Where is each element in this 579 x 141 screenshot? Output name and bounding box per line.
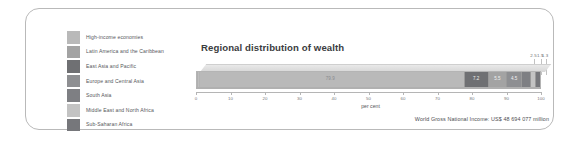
bar-front-face: 79.97.25.54.5 bbox=[196, 71, 541, 89]
bar-segment-label: 79.9 bbox=[326, 77, 335, 82]
bar-bottom-edge bbox=[196, 87, 541, 89]
legend-swatch bbox=[67, 119, 80, 132]
axis-tick-label: 40 bbox=[331, 96, 336, 101]
legend-swatch bbox=[67, 60, 80, 73]
axis-tick-label: 100 bbox=[537, 96, 545, 101]
axis-tick bbox=[472, 92, 473, 95]
bar-segment-label: 4.5 bbox=[511, 77, 518, 82]
bar-left-cap bbox=[196, 71, 200, 89]
bar-segment bbox=[522, 72, 530, 88]
legend-swatch bbox=[67, 75, 80, 88]
legend-item-label: Middle East and North Africa bbox=[86, 108, 154, 113]
x-axis-title: per cent bbox=[361, 103, 380, 109]
axis-tick bbox=[541, 92, 542, 95]
axis-tick bbox=[300, 92, 301, 95]
axis-tick bbox=[196, 92, 197, 95]
legend-item: Sub-Saharan Africa bbox=[67, 118, 192, 133]
axis-tick bbox=[369, 92, 370, 95]
bar-segment-label: 5.5 bbox=[494, 77, 501, 82]
bar-segment: 5.5 bbox=[489, 72, 507, 88]
bar-segment bbox=[536, 72, 540, 88]
legend-item: South Asia bbox=[67, 88, 192, 103]
legend-item: Latin America and the Caribbean bbox=[67, 45, 192, 60]
axis-tick-label: 60 bbox=[400, 96, 405, 101]
axis-tick bbox=[438, 92, 439, 95]
figure-frame: High-income economiesLatin America and t… bbox=[25, 8, 554, 130]
axis-tick-label: 80 bbox=[469, 96, 474, 101]
legend-item-label: Latin America and the Caribbean bbox=[86, 49, 164, 54]
axis-tick-label: 0 bbox=[195, 96, 198, 101]
axis-tick bbox=[265, 92, 266, 95]
bar-segment: 79.9 bbox=[197, 72, 465, 88]
axis-tick bbox=[507, 92, 508, 95]
legend-item: East Asia and Pacific bbox=[67, 59, 192, 74]
chart-footnote: World Gross National Income: US$ 48 694 … bbox=[415, 116, 549, 122]
legend-item-label: Europe and Central Asia bbox=[86, 79, 144, 84]
axis-tick-label: 10 bbox=[228, 96, 233, 101]
sliver-callout-label: 2.5 bbox=[530, 53, 536, 58]
axis-tick-label: 20 bbox=[262, 96, 267, 101]
bar-segment: 4.5 bbox=[507, 72, 522, 88]
axis-tick-label: 70 bbox=[435, 96, 440, 101]
sliver-callouts: 2.51.51.3 bbox=[482, 53, 552, 63]
chart-area: Regional distribution of wealth 2.51.51.… bbox=[196, 42, 551, 134]
stacked-bar: 79.97.25.54.5 bbox=[196, 64, 545, 92]
bar-segment: 7.2 bbox=[465, 72, 489, 88]
chart-title: Regional distribution of wealth bbox=[201, 42, 344, 53]
legend-swatch bbox=[67, 104, 80, 117]
legend-item: Europe and Central Asia bbox=[67, 74, 192, 89]
figure-container: High-income economiesLatin America and t… bbox=[0, 0, 579, 141]
sliver-callout-label: 1.3 bbox=[542, 53, 548, 58]
axis-tick-label: 50 bbox=[366, 96, 371, 101]
legend-item: Middle East and North Africa bbox=[67, 103, 192, 118]
legend-item-label: Sub-Saharan Africa bbox=[86, 122, 132, 127]
legend-swatch bbox=[67, 89, 80, 102]
legend-swatch bbox=[67, 46, 80, 59]
legend-item-label: East Asia and Pacific bbox=[86, 64, 136, 69]
x-axis: 0102030405060708090100 per cent bbox=[196, 92, 545, 106]
legend-item: High-income economies bbox=[67, 30, 192, 45]
axis-tick-label: 90 bbox=[504, 96, 509, 101]
axis-tick bbox=[403, 92, 404, 95]
legend-item-label: High-income economies bbox=[86, 35, 143, 40]
axis-tick bbox=[231, 92, 232, 95]
legend-swatch bbox=[67, 31, 80, 44]
axis-tick-label: 30 bbox=[297, 96, 302, 101]
axis-tick bbox=[334, 92, 335, 95]
chart-legend: High-income economiesLatin America and t… bbox=[67, 30, 192, 132]
legend-item-label: South Asia bbox=[86, 93, 112, 98]
bar-segment-label: 7.2 bbox=[473, 77, 480, 82]
